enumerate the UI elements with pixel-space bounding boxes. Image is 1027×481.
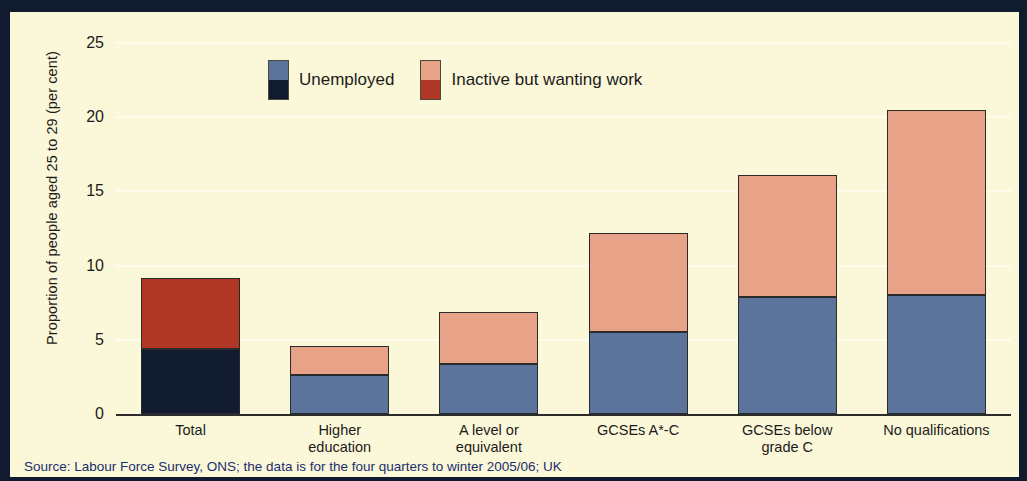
y-axis-tick-label: 5: [62, 331, 104, 349]
legend-swatch: [420, 60, 441, 100]
figure-frame-left: [0, 0, 10, 481]
bar-segment-unemployed: [589, 332, 688, 414]
bar-segment-inactive: [738, 175, 837, 297]
bar-segment-inactive: [589, 233, 688, 332]
bar-segment-inactive: [887, 110, 986, 296]
legend-swatch-dark: [269, 80, 288, 99]
figure-frame-right: [1019, 0, 1027, 481]
legend-swatch-light: [421, 61, 440, 80]
legend-swatch-light: [269, 61, 288, 80]
y-axis-tick-label: 15: [62, 182, 104, 200]
chart-figure: Proportion of people aged 25 to 29 (per …: [0, 0, 1027, 481]
figure-frame-top: [0, 0, 1027, 12]
bar-segment-unemployed: [439, 364, 538, 414]
bar-stack: [738, 175, 837, 414]
x-axis-label-line: Total: [116, 422, 265, 439]
source-note: Source: Labour Force Survey, ONS; the da…: [24, 459, 562, 474]
chart-legend: UnemployedInactive but wanting work: [268, 60, 642, 100]
y-axis-tick-label: 20: [62, 108, 104, 126]
x-axis-label-line: No qualifications: [862, 422, 1011, 439]
x-axis-label-line: GCSEs A*-C: [564, 422, 713, 439]
bar-segment-inactive: [141, 278, 240, 349]
plot-area: Proportion of people aged 25 to 29 (per …: [10, 12, 1019, 477]
bar-segment-unemployed: [141, 349, 240, 414]
figure-frame-bottom: [0, 477, 1027, 481]
bar-segment-inactive: [290, 346, 389, 376]
bar-segment-unemployed: [738, 297, 837, 414]
y-axis-tick-label: 10: [62, 257, 104, 275]
bar-stack: [439, 312, 538, 414]
y-axis-tick-label: 25: [62, 34, 104, 52]
bar-stack: [589, 233, 688, 414]
x-axis-label-line: grade C: [713, 439, 862, 456]
x-axis-label: Total: [116, 422, 265, 439]
x-axis-label-line: education: [265, 439, 414, 456]
legend-swatch-dark: [421, 80, 440, 99]
x-axis-label: GCSEs A*-C: [564, 422, 713, 439]
bar-stack: [887, 110, 986, 414]
legend-item: Unemployed: [268, 60, 394, 100]
x-axis-label-line: equivalent: [414, 439, 563, 456]
legend-item: Inactive but wanting work: [420, 60, 642, 100]
y-axis-title: Proportion of people aged 25 to 29 (per …: [44, 12, 60, 388]
bar-segment-unemployed: [290, 375, 389, 414]
x-axis-label: No qualifications: [862, 422, 1011, 439]
x-axis-label: Highereducation: [265, 422, 414, 456]
bar-stack: [290, 346, 389, 414]
legend-label: Unemployed: [299, 70, 394, 90]
x-axis-label-line: Higher: [265, 422, 414, 439]
legend-swatch: [268, 60, 289, 100]
bar-segment-inactive: [439, 312, 538, 364]
x-axis-label: GCSEs belowgrade C: [713, 422, 862, 456]
legend-label: Inactive but wanting work: [451, 70, 642, 90]
x-axis-label-line: GCSEs below: [713, 422, 862, 439]
y-axis-tick-label: 0: [62, 405, 104, 423]
x-axis-label: A level orequivalent: [414, 422, 563, 456]
x-axis-label-line: A level or: [414, 422, 563, 439]
bar-segment-unemployed: [887, 295, 986, 414]
bar-stack: [141, 277, 240, 414]
